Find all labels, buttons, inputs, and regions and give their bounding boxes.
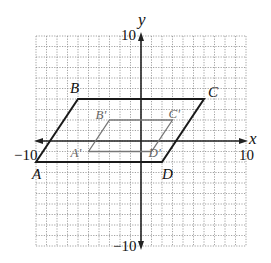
- coordinate-plane: x y 10 −10 10 −10 ABCDA'B'C'D': [0, 0, 271, 263]
- y-axis-arrow-down: [138, 241, 144, 250]
- image-vertex-label: D': [148, 145, 161, 160]
- y-axis-arrow-up: [138, 32, 144, 41]
- original-vertex-label: A: [31, 166, 42, 182]
- y-axis-label: y: [136, 10, 146, 29]
- x-axis-arrow-left: [34, 138, 43, 144]
- y-max-label: 10: [121, 27, 136, 43]
- image-vertex-label: C': [169, 106, 181, 121]
- x-max-label: 10: [239, 147, 254, 163]
- original-vertex-label: D: [161, 166, 173, 182]
- y-min-label: −10: [113, 238, 136, 254]
- x-axis-arrow-right: [239, 138, 248, 144]
- x-axis-label: x: [248, 129, 257, 148]
- x-min-label: −10: [14, 147, 37, 163]
- image-vertex-label: B': [96, 107, 107, 122]
- image-vertex-label: A': [70, 145, 82, 160]
- original-vertex-label: C: [208, 84, 219, 100]
- original-vertex-label: B: [70, 80, 79, 96]
